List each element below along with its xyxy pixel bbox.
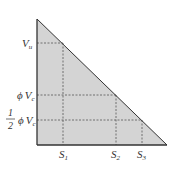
label-s3: S3 bbox=[137, 148, 147, 162]
label-s1: S1 bbox=[59, 148, 68, 162]
label-half-phi-vc: 1 2 ϕVc bbox=[6, 107, 36, 131]
half-phi-vc-text: ϕVc bbox=[18, 114, 36, 128]
fraction-denominator: 2 bbox=[8, 120, 13, 131]
shear-diagram: Vu ϕVc 1 2 ϕVc S1 S2 S3 bbox=[0, 0, 181, 169]
label-s2: S2 bbox=[111, 148, 121, 162]
fraction-numerator: 1 bbox=[8, 107, 13, 118]
label-phi-vc: ϕVc bbox=[17, 89, 35, 103]
label-vu: Vu bbox=[22, 37, 33, 51]
